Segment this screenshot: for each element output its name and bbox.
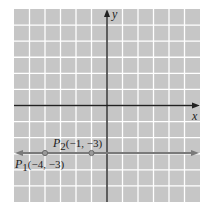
point-p2 [89, 150, 94, 155]
point-p1 [42, 150, 47, 155]
coordinate-plane: x y P2(−1, −3) P1(−4, −3) [0, 0, 212, 215]
y-axis-label: y [111, 7, 118, 21]
x-axis-label: x [191, 109, 198, 123]
